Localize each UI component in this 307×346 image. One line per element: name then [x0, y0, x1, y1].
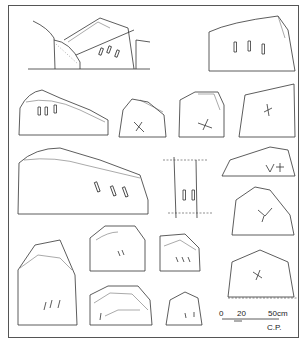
stone-3 [19, 90, 108, 135]
stone-12 [160, 234, 200, 271]
stone-14 [166, 292, 202, 325]
stone-5 [179, 92, 224, 137]
scale-credit: C.P. [267, 323, 282, 332]
stone-4 [119, 99, 166, 137]
stone-7 [18, 148, 148, 214]
notch-marks [99, 46, 120, 57]
stone-10 [18, 240, 77, 325]
stone-6 [239, 84, 295, 137]
stone-2 [209, 16, 295, 71]
stone-11 [90, 226, 145, 271]
stone-scene-1 [28, 18, 150, 69]
stone-9 [232, 187, 294, 235]
scale-tick-50cm: 50cm [268, 309, 288, 318]
stone-8 [222, 147, 295, 176]
stone-section [163, 157, 212, 218]
scale-tick-20: 20 [237, 309, 246, 318]
stone-15 [228, 250, 298, 298]
scale-bar: 0 20 50cm C.P. [219, 309, 288, 332]
stone-drawings: 0 20 50cm C.P. [0, 0, 307, 346]
scale-tick-0: 0 [219, 309, 224, 318]
stone-13 [90, 286, 152, 325]
